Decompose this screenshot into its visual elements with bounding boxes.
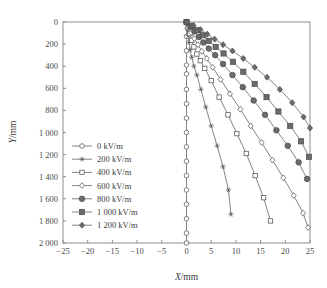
marker-square-filled xyxy=(221,51,226,56)
marker-circle-open xyxy=(184,241,189,246)
y-tick-label: 800 xyxy=(45,105,58,115)
y-axis-title: Y/mm xyxy=(8,120,18,143)
y-tick-label: 1 000 xyxy=(39,128,58,138)
marker-circle-open xyxy=(184,202,189,207)
marker-diamond-filled xyxy=(241,55,246,61)
legend-label-3: 600 kV/m xyxy=(97,181,132,191)
marker-star xyxy=(79,157,84,162)
marker-circle-filled xyxy=(262,112,268,118)
marker-square-filled xyxy=(79,209,84,214)
legend-item-2[interactable]: 400 kV/m xyxy=(72,167,132,177)
marker-circle-open xyxy=(184,130,189,135)
marker-circle-filled xyxy=(230,72,236,78)
marker-square-open xyxy=(217,95,221,99)
x-tick-label: 15 xyxy=(256,246,265,256)
data-series-group xyxy=(184,19,313,245)
y-tick-label: 1 800 xyxy=(39,216,58,226)
marker-square-filled xyxy=(241,69,246,74)
legend-item-0[interactable]: 0 kV/m xyxy=(72,141,123,151)
x-tick-label: −15 xyxy=(106,246,119,256)
marker-circle-filled xyxy=(251,98,257,104)
y-tick-label: 2 000 xyxy=(39,238,58,248)
y-tick-label: 200 xyxy=(45,39,58,49)
chart-legend: 0 kV/m200 kV/m400 kV/m600 kV/m800 kV/m1 … xyxy=(72,141,138,230)
x-axis-title: X/mm xyxy=(174,272,199,282)
legend-label-1: 200 kV/m xyxy=(97,154,132,164)
y-tick-label: 0 xyxy=(54,17,58,27)
legend-label-2: 400 kV/m xyxy=(97,167,132,177)
x-axis-tick-labels: −25−20−15−10−50510152025 xyxy=(56,246,314,256)
marker-circle-open xyxy=(184,63,189,68)
marker-diamond-filled xyxy=(212,36,217,42)
marker-diamond-open xyxy=(281,175,286,181)
marker-circle-filled xyxy=(220,61,226,67)
chart-figure: −25−20−15−10−50510152025 02004006008001 … xyxy=(0,0,327,288)
marker-diamond-filled xyxy=(307,125,312,131)
legend-label-5: 1 000 kV/m xyxy=(97,207,138,217)
legend-item-5[interactable]: 1 000 kV/m xyxy=(72,207,138,217)
legend-item-6[interactable]: 1 200 kV/m xyxy=(72,220,138,230)
marker-square-filled xyxy=(230,59,235,64)
x-tick-label: −10 xyxy=(130,246,143,256)
legend-label-6: 1 200 kV/m xyxy=(97,220,138,230)
y-tick-label: 1 600 xyxy=(39,194,58,204)
legend-item-3[interactable]: 600 kV/m xyxy=(72,181,132,191)
marker-square-open xyxy=(244,151,248,155)
x-tick-label: −20 xyxy=(81,246,94,256)
x-tick-label: 20 xyxy=(281,246,290,256)
marker-circle-filled xyxy=(240,84,246,90)
marker-square-open xyxy=(226,113,230,117)
marker-square-open xyxy=(261,195,265,199)
marker-circle-open xyxy=(184,72,189,77)
legend-label-0: 0 kV/m xyxy=(97,141,123,151)
legend-item-1[interactable]: 200 kV/m xyxy=(72,154,132,164)
legend-item-4[interactable]: 800 kV/m xyxy=(72,194,132,204)
marker-circle-open xyxy=(184,231,189,236)
y-tick-label: 1 200 xyxy=(39,150,58,160)
marker-square-open xyxy=(198,58,202,62)
series-0 xyxy=(184,20,189,246)
x-tick-label: 0 xyxy=(184,246,188,256)
marker-square-filled xyxy=(264,95,269,100)
x-tick-label: −5 xyxy=(157,246,166,256)
y-tick-label: 400 xyxy=(45,61,58,71)
legend-label-4: 800 kV/m xyxy=(97,194,132,204)
line-chart-svg: −25−20−15−10−50510152025 02004006008001 … xyxy=(0,0,327,288)
marker-diamond-open xyxy=(301,210,306,216)
marker-circle-filled xyxy=(206,46,212,52)
marker-square-filled xyxy=(288,123,293,128)
marker-circle-open xyxy=(184,188,189,193)
marker-circle-open xyxy=(184,87,189,92)
marker-circle-open xyxy=(184,101,189,106)
marker-square-open xyxy=(209,78,213,82)
marker-circle-open xyxy=(184,48,189,53)
x-tick-label: 25 xyxy=(306,246,315,256)
marker-star xyxy=(215,144,220,149)
marker-circle-filled xyxy=(212,52,218,58)
marker-square-open xyxy=(253,173,257,177)
marker-square-filled xyxy=(206,38,211,43)
x-tick-label: −25 xyxy=(56,246,69,256)
marker-square-open xyxy=(195,52,199,56)
marker-circle-filled xyxy=(296,160,302,166)
marker-circle-open xyxy=(184,216,189,221)
marker-diamond-filled xyxy=(252,64,257,70)
marker-square-open xyxy=(203,66,207,70)
marker-diamond-open xyxy=(270,157,275,163)
marker-diamond-open xyxy=(291,193,296,199)
marker-circle-open xyxy=(184,116,189,121)
marker-square-open xyxy=(235,131,239,135)
marker-square-filled xyxy=(200,33,205,38)
marker-circle-filled xyxy=(304,176,310,182)
y-tick-label: 600 xyxy=(45,83,58,93)
marker-circle-open xyxy=(184,159,189,164)
marker-circle-filled xyxy=(79,196,85,202)
y-tick-label: 1 400 xyxy=(39,172,58,182)
marker-square-filled xyxy=(299,139,304,144)
marker-circle-open xyxy=(80,144,85,149)
x-tick-label: 10 xyxy=(232,246,241,256)
marker-circle-open xyxy=(184,173,189,178)
marker-square-open xyxy=(268,219,272,223)
marker-star xyxy=(209,124,214,129)
marker-diamond-open xyxy=(80,183,85,189)
